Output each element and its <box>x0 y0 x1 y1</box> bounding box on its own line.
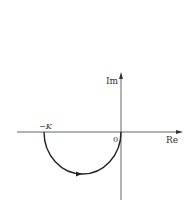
nyquist-curve <box>44 132 121 174</box>
imag-axis-arrow-icon <box>119 72 123 79</box>
imag-axis-label: Im <box>106 76 119 86</box>
nyquist-diagram: Im Re 0 −K <box>0 0 192 211</box>
origin-label: 0 <box>113 135 118 144</box>
real-axis-arrow-icon <box>176 130 183 134</box>
real-axis-label: Re <box>166 135 178 145</box>
curve-direction-arrow-icon <box>76 172 82 177</box>
minus-k-label: −K <box>39 122 53 131</box>
